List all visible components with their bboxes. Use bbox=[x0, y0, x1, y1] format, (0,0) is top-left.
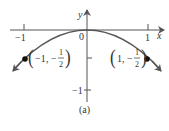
svg-text:): ) bbox=[141, 45, 147, 69]
figure-caption: (a) bbox=[79, 104, 90, 116]
svg-text:2: 2 bbox=[59, 60, 63, 69]
svg-text:−1: −1 bbox=[35, 53, 46, 64]
svg-text:, −: , − bbox=[122, 53, 133, 64]
svg-text:1: 1 bbox=[59, 48, 63, 57]
x-tick-label-1: 1 bbox=[145, 32, 150, 43]
origin-label: 0 bbox=[79, 31, 84, 42]
point-label-left: ( −1 , − 1 2 ) bbox=[28, 45, 71, 69]
y-tick-label-neg1: −1 bbox=[72, 85, 83, 96]
x-tick-label-neg1: −1 bbox=[15, 32, 26, 43]
point-label-right: ( 1 , − 1 2 ) bbox=[110, 45, 147, 69]
curve-arrow-left bbox=[13, 61, 22, 71]
svg-text:): ) bbox=[65, 45, 71, 69]
curve-arrow-right bbox=[152, 61, 161, 71]
x-axis-label: x bbox=[156, 30, 162, 41]
y-axis-label: y bbox=[77, 9, 83, 20]
svg-text:2: 2 bbox=[135, 60, 139, 69]
parabola-diagram: y x 0 −1 1 −1 ( −1 , − 1 2 ) ( 1 , − 1 2… bbox=[0, 0, 169, 131]
svg-text:(: ( bbox=[28, 45, 34, 69]
svg-text:1: 1 bbox=[135, 48, 139, 57]
svg-text:(: ( bbox=[110, 45, 116, 69]
svg-text:, −: , − bbox=[46, 53, 57, 64]
point-neg1-neg-half bbox=[22, 56, 28, 62]
